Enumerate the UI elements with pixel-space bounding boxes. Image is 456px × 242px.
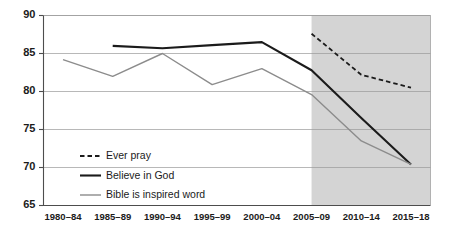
x-tick-label: 2015–18 — [393, 211, 430, 222]
x-tick-label: 2000–04 — [243, 211, 281, 222]
x-tick-label: 1990–94 — [144, 211, 182, 222]
x-tick-label: 1980–84 — [45, 211, 83, 222]
chart-container: 657075808590 1980–841985–891990–941995–9… — [0, 0, 456, 242]
y-tick-label: 90 — [23, 8, 35, 20]
legend-item-label: Believe in God — [106, 169, 174, 181]
line-chart: 657075808590 1980–841985–891990–941995–9… — [0, 0, 456, 242]
y-tick-label: 75 — [23, 122, 35, 134]
legend-item-label: Ever pray — [106, 149, 152, 161]
y-tick-label: 65 — [23, 198, 35, 210]
y-tick-label: 70 — [23, 160, 35, 172]
legend-item-label: Bible is inspired word — [106, 188, 205, 200]
x-tick-label: 2005–09 — [293, 211, 330, 222]
y-tick-label: 80 — [23, 84, 35, 96]
x-tick-label: 2010–14 — [343, 211, 381, 222]
x-tick-label: 1985–89 — [94, 211, 131, 222]
x-tick-label: 1995–99 — [194, 211, 231, 222]
y-tick-label: 85 — [23, 46, 35, 58]
